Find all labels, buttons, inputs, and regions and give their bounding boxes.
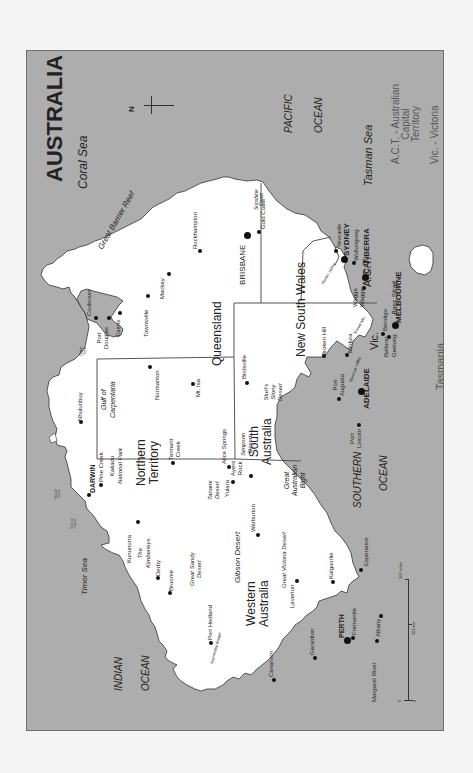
kalgoorlie-dot [331,580,335,584]
scale-zero-right: 0 [413,700,417,702]
port-douglas-label: Port Douglas [96,327,110,349]
tasmania-label: Tasmania [435,343,444,390]
queensland-label: Queensland [211,301,223,366]
bendigo-dot [381,332,385,336]
mackay-dot [167,272,171,276]
western-australia-label: Western Australia [245,580,271,627]
cooktown-dot [94,316,98,320]
northern-territory-label: Northern Territory [135,439,161,486]
great-sandy-desert-label: Great Sandy Desert [189,552,203,586]
brisbane-dot [244,232,251,239]
port-lincoln-label: Port Lincoln [349,429,363,448]
esperance-label: Esperance [363,537,369,566]
southern-ocean-label: OCEAN [379,455,389,491]
kalgoorlie-label: Kalgoorlie [328,552,334,579]
broken-hill-label: Broken Hill [321,327,327,356]
alice-springs-label: Alice Springs [221,429,227,464]
timor-sea-label: Timor Sea [81,558,89,595]
victoria-label: Vic. [369,332,380,350]
mt-isa-label: Mt. Isa [195,379,201,397]
gold-coast-label: Gold Coast [260,199,266,229]
cairns-label: Cairns [115,320,121,337]
yulara-label: Yulara [224,480,230,497]
canberra-label: CANBERRA [363,228,371,274]
scale-zero-left: 0 [398,700,402,702]
bathurst-island-label: Bathurst Island [71,518,77,529]
newcastle-dot [334,249,338,253]
pine-creek-label: Pine Creek [98,452,104,482]
broome-label: Broome [168,570,174,591]
adelaide-label: ADELAIDE [363,368,371,409]
canberra-dot [362,274,369,281]
tanami-desert-label: Tanami Desert [207,481,221,500]
map-frame: AUSTRALIA N A.C.T. - Australian Capital … [26,50,444,731]
kakadu-label: Kakadu National Park [108,448,124,484]
north-label: N [128,106,136,112]
geraldton-label: Geraldton [309,629,315,655]
albany-label: Albany [375,619,381,637]
normanton-label: Normanton [154,370,160,400]
wollongong-label: Wollongong [353,229,359,261]
perth-label: PERTH [338,614,345,638]
indian-label: INDIAN [114,657,124,691]
esperance-dot [359,568,363,572]
tennant-creek-dot [171,461,175,465]
southern-label: SOUTHERN [353,452,363,508]
gold-coast-dot [257,230,261,234]
pacific-label: PACIFIC [284,94,294,133]
melbourne-label: MELBOURNE [395,271,403,323]
albany-dot [379,614,383,618]
ballarat-label: Ballarat [383,337,389,357]
scale-miles: 500 miles [399,562,403,579]
port-douglas-dot [107,316,111,320]
pacific-ocean-label: OCEAN [314,97,324,133]
cape-york-label: Cape York [79,346,87,356]
fremantle-dot [351,636,355,640]
kununurra-label: Kununurra [126,535,132,563]
sturts-stony-desert-label: Sturt's Stony Desert [263,383,284,401]
ayers-rock-dot [249,474,253,478]
melville-island-label: Melville Island [55,489,61,499]
margaret-river-label: Margaret River [371,662,377,702]
birdsville-label: Birdsville [241,355,247,379]
mackay-label: Mackay [159,278,165,299]
gulf-of-carpentaria-label: Gulf of Carpentaria [99,381,117,418]
birdsville-dot [245,381,249,385]
darwin-label: DARWIN [89,464,96,493]
kununurra-dot [136,520,140,524]
port-lincoln-dot [357,423,361,427]
broome-dot [168,591,172,595]
darwin-dot [87,493,91,497]
brisbane-label: BRISBANE [239,245,247,285]
warburton-label: Warburton [250,504,256,532]
indian-ocean-label: OCEAN [141,655,151,691]
mildura-dot [345,353,349,357]
tasmania [409,245,433,275]
pine-creek-dot [99,483,103,487]
new-south-wales-label: New South Wales [295,262,307,357]
rockhampton-label: Rockhampton [192,212,198,249]
coral-sea-label: Coral Sea [77,136,89,189]
great-victoria-desert-label: Great Victoria Desert [281,532,287,588]
legend-vic: Vic. - Victoria [430,105,440,164]
laverton-label: Laverton [289,585,295,608]
north-arrow-shaft [144,105,174,106]
sydney-dot [341,256,348,263]
yulara-dot [231,480,235,484]
geraldton-dot [313,656,317,660]
margaret-river-dot [375,639,379,643]
fremantle-label: Fremantle [351,608,357,635]
derby-dot [156,576,160,580]
derby-label: Derby [155,560,161,576]
normanton-dot [148,365,152,369]
gibson-desert-label: Gibson Desert [234,532,242,583]
tennant-creek-label: Tennant Creek [168,439,182,460]
cairns-dot [118,311,122,315]
canarvon-dot [272,678,276,682]
bendigo-label: Bendigo [382,309,388,331]
legend-act: A.C.T. - Australian Capital Territory [391,84,421,164]
rockhampton-dot [198,249,202,253]
nhulunbuy-label: Nhulunbuy [77,392,83,421]
geelong-label: Geelong [391,334,397,357]
townsville-dot [146,294,150,298]
